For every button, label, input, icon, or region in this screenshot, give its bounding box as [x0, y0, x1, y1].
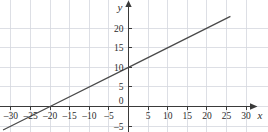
y-axis-arrow-icon [125, 1, 131, 8]
y-tick-label: 5 [119, 82, 124, 92]
y-tick-label: –5 [113, 122, 124, 132]
x-tick-label: –15 [62, 111, 78, 121]
x-tick-label: –20 [42, 111, 58, 121]
origin-label: 0 [119, 96, 124, 106]
x-tick-label: –30 [3, 111, 19, 121]
x-axis-tick-labels: –30–25–20–15–10–551015202530 [3, 111, 251, 121]
y-tick-label: 20 [114, 24, 124, 34]
y-tick-label: 10 [114, 63, 124, 73]
x-tick-label: 30 [241, 111, 251, 121]
x-tick-label: 5 [146, 111, 151, 121]
coordinate-plane: –30–25–20–15–10–551015202530 2015105–5 0… [0, 0, 268, 132]
y-tick-label: 15 [114, 43, 124, 53]
x-tick-label: 20 [202, 111, 212, 121]
line-graph-figure: –30–25–20–15–10–551015202530 2015105–5 0… [0, 0, 268, 132]
y-axis-tick-labels: 2015105–5 [113, 24, 124, 132]
x-tick-label: –25 [22, 111, 38, 121]
x-tick-label: 25 [222, 111, 232, 121]
y-axis-label: y [117, 1, 123, 13]
x-tick-label: –5 [103, 111, 114, 121]
x-axis-arrow-icon [250, 103, 258, 109]
x-tick-label: 10 [163, 111, 173, 121]
x-axis-label: x [257, 109, 263, 121]
x-tick-label: –10 [81, 111, 97, 121]
x-tick-label: 15 [183, 111, 193, 121]
